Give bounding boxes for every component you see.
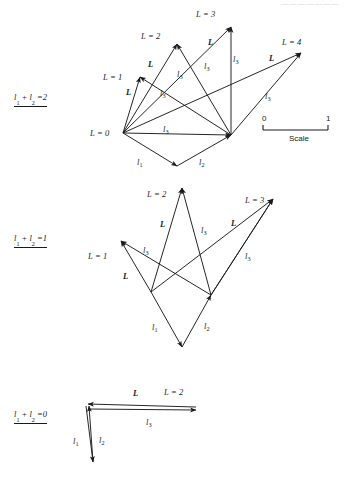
scale-bar-label: Scale xyxy=(289,134,309,143)
scale-tick-min: 0 xyxy=(262,114,266,123)
arrow-mid-l1 xyxy=(151,292,182,347)
mid-edge-L-b: L xyxy=(160,220,165,229)
vertex-label-L2: L = 2 xyxy=(141,32,160,41)
edge-label-l1: l1 xyxy=(137,158,143,167)
bot-vertex-label-L2: L = 2 xyxy=(164,388,183,397)
arrow-mid-l3-to-L1 xyxy=(121,241,211,295)
bot-edge-L: L xyxy=(133,389,138,398)
mid-edge-l3-a: l3 xyxy=(143,246,149,255)
figure-root: ——————— L = 0L = 1L = 2L = 3L = 4LLLLl3l… xyxy=(0,0,346,479)
vertex-label-L1: L = 1 xyxy=(103,73,122,82)
mid-edge-l3-c: l3 xyxy=(245,252,251,261)
vertex-label-L4: L = 4 xyxy=(282,38,301,47)
edge-label-l3-c: l3 xyxy=(204,62,210,71)
mid-vertex-label-L2: L = 2 xyxy=(147,190,166,199)
bot-edge-l2: l2 xyxy=(99,436,105,445)
arrow-l3-horizontal xyxy=(123,133,231,135)
mid-edge-l1: l1 xyxy=(152,323,158,332)
edge-label-L-b: L xyxy=(148,60,153,69)
edge-label-l3-f: l3 xyxy=(163,125,169,134)
edge-label-l3-a: l3 xyxy=(160,89,166,98)
edge-label-l3-e: l3 xyxy=(265,92,271,101)
edge-label-L-a: L xyxy=(126,88,131,97)
vertex-label-L0: L = 0 xyxy=(90,129,109,138)
arrow-mid-l3-right xyxy=(211,199,273,295)
vertex-label-L3: L = 3 xyxy=(196,10,215,19)
bot-edge-l3: l3 xyxy=(146,418,152,427)
arrow-mid-l2 xyxy=(182,295,211,347)
panel-tag-panel-middle: l1 + l2 =1 xyxy=(14,233,47,248)
arrow-mid-l3-to-L3 xyxy=(151,199,273,292)
arrow-mid-l3-to-L2 xyxy=(182,188,211,295)
arrow-l3-to-L2 xyxy=(177,44,231,135)
scale-bar-graphic xyxy=(263,125,328,130)
panel-tag-panel-bottom: l1 + l2 =0 xyxy=(14,409,47,424)
mid-vertex-label-L1: L = 1 xyxy=(88,252,107,261)
mid-edge-l2: l2 xyxy=(204,322,210,331)
mid-edge-l3-b: l3 xyxy=(201,226,207,235)
mid-vertex-label-L3: L = 3 xyxy=(245,196,264,205)
edge-label-l3-d: l3 xyxy=(233,55,239,64)
edge-label-l2: l2 xyxy=(199,158,205,167)
bot-edge-l1: l1 xyxy=(73,437,79,446)
arrow-l3-to-L1 xyxy=(140,77,231,135)
panel-tag-panel-top: l1 + l2 =2 xyxy=(14,92,47,107)
edge-label-L-d: L xyxy=(269,54,274,63)
edge-label-L-c: L xyxy=(208,38,213,47)
arrow-bot-l3-arrow xyxy=(88,409,196,410)
mid-edge-L-c: L xyxy=(231,219,236,228)
vector-coupling-diagram xyxy=(0,0,346,479)
scale-tick-max: 1 xyxy=(326,114,330,123)
arrow-l1-arrow xyxy=(123,133,177,166)
edge-label-l3-b: l3 xyxy=(177,70,183,79)
arrow-mid-L-to-L2 xyxy=(151,188,182,292)
mid-edge-L-a: L xyxy=(123,272,128,281)
arrow-bot-L-arrow xyxy=(88,404,196,407)
